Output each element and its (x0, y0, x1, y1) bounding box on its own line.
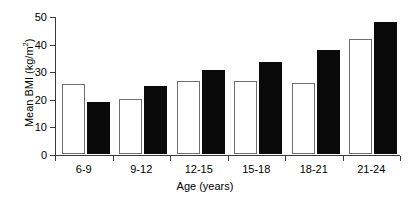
bar-group (234, 16, 282, 154)
y-axis-tick (50, 127, 55, 128)
x-axis-tick (343, 156, 344, 161)
bar-filled (317, 50, 340, 154)
x-axis-tick (400, 156, 401, 161)
y-axis-title: Mean BMI (kg/m2) (21, 8, 35, 158)
x-axis-title: Age (years) (0, 180, 410, 192)
y-axis-tick-label: 0 (41, 150, 47, 161)
bar-chart-figure: Mean BMI (kg/m2) 01020304050 6-99-1212-1… (0, 0, 410, 199)
x-axis-tick (285, 156, 286, 161)
x-axis-tick (170, 156, 171, 161)
bar-group (62, 16, 110, 154)
x-axis-tick-label: 21-24 (336, 164, 406, 175)
y-axis-tick (50, 17, 55, 18)
y-axis-title-superscript: 2 (21, 42, 30, 46)
y-axis-tick (50, 100, 55, 101)
bar-open (62, 84, 85, 154)
bar-group (177, 16, 225, 154)
bar-group (119, 16, 167, 154)
plot-area: 01020304050 6-99-1212-1515-1818-2121-24 (55, 17, 400, 155)
bar-open (349, 39, 372, 154)
x-axis-tick (113, 156, 114, 161)
bar-filled (202, 70, 225, 154)
bar-filled (259, 62, 282, 154)
y-axis-tick (50, 45, 55, 46)
y-axis-tick (50, 72, 55, 73)
bar-filled (87, 102, 110, 154)
x-axis-tick (228, 156, 229, 161)
bar-open (119, 99, 142, 154)
y-axis-tick-label: 40 (35, 39, 47, 50)
bar-open (234, 81, 257, 154)
bar-group (349, 16, 397, 154)
y-axis-title-close: ) (23, 39, 35, 43)
bar-filled (144, 86, 167, 154)
bar-group (292, 16, 340, 154)
bar-open (177, 81, 200, 154)
x-axis-tick (55, 156, 56, 161)
y-axis-tick-label: 30 (35, 67, 47, 78)
y-axis-title-base: Mean BMI (kg/m (23, 46, 35, 127)
y-axis-line (55, 17, 56, 156)
bar-open (292, 83, 315, 154)
y-axis-tick-label: 50 (35, 12, 47, 23)
bar-filled (374, 22, 397, 154)
y-axis-tick-label: 10 (35, 122, 47, 133)
y-axis-tick-label: 20 (35, 94, 47, 105)
